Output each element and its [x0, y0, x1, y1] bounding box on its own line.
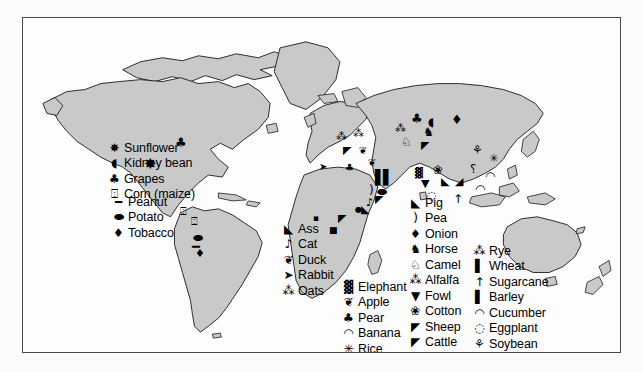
legend-item: ▼Fowl — [408, 288, 461, 304]
africa-crops-legend: ▓Elephant❦Apple♣Pear◠Banana✳Rice⬬Lentil — [341, 279, 407, 353]
cattle-icon: ◤ — [408, 336, 423, 348]
legend-item: ✸Sunflower — [107, 140, 195, 156]
legend-item-label: Cattle — [423, 335, 457, 349]
legend-item-label: Onion — [423, 227, 458, 241]
landmass-japan — [521, 131, 539, 157]
legend-item-label: Barley — [487, 290, 524, 304]
legend-item: ◖Kidney bean — [107, 156, 195, 172]
legend-item-label: Banana — [356, 326, 401, 340]
legend-item: ♘Camel — [408, 257, 461, 273]
barley-icon: ▌ — [472, 291, 487, 303]
map-frame: ♣✸⍠⍠⬬━♦⁂⁂◤❦➤♣❦▌▌)⬬◤♪◣♣◖♦⁂♞♘◤❀▼◣◢⚘⸮◠✳↑◠◌▓… — [22, 17, 621, 353]
legend-item-label: Dog — [423, 351, 448, 353]
legend-item: ━Peanut — [111, 194, 174, 210]
legend-item: ⁂Rye — [472, 243, 549, 259]
legend-item: ♣Grapes — [107, 171, 195, 187]
legend-item: ◣Pig — [408, 195, 461, 211]
legend-item-label: Tobacco — [126, 226, 174, 240]
legend-item-label: Grapes — [122, 172, 164, 186]
landmass-borneo — [499, 183, 519, 197]
legend-item-label: Eggplant — [487, 321, 538, 335]
south-america-legend: ━Peanut⬬Potato♦Tobacco — [111, 194, 174, 241]
wheat-icon: ▌ — [472, 260, 487, 272]
legend-item-label: Cotton — [423, 304, 461, 318]
legend-item-label: Elephant — [356, 280, 407, 294]
landmass-new-zealand-south — [585, 276, 603, 294]
landmass-south-america — [174, 207, 262, 332]
landmass-new-zealand-north — [599, 261, 611, 277]
legend-item: ♪Cat — [281, 237, 334, 253]
legend-item-label: Cucumber — [487, 306, 546, 320]
legend-item: ✳Rice — [341, 341, 407, 353]
landmass-falklands — [212, 333, 221, 338]
legend-item-label: Pig — [423, 196, 443, 210]
legend-item: ♣Pear — [341, 310, 407, 326]
grapes-icon: ♣ — [107, 173, 122, 185]
legend-item: ◢Dog — [408, 350, 461, 353]
cucumber-icon: ◠ — [472, 307, 487, 319]
sheep-icon: ◤ — [408, 321, 423, 333]
legend-item: ⁂Oats — [281, 283, 334, 299]
dog-icon: ◢ — [408, 352, 423, 353]
legend-item-label: Peanut — [126, 195, 167, 209]
ass-icon: ◣ — [281, 223, 296, 235]
legend-item: ◠Cucumber — [472, 305, 549, 321]
legend-item-label: Rye — [487, 244, 511, 258]
pear-icon: ♣ — [341, 312, 356, 324]
pig-icon: ◣ — [408, 197, 423, 209]
north-america-legend: ✸Sunflower◖Kidney bean♣Grapes⍠Corn (maiz… — [107, 140, 195, 202]
legend-item-label: Pea — [423, 211, 447, 225]
legend-item: ◤Sheep — [408, 319, 461, 335]
rye-icon: ⁂ — [472, 245, 487, 257]
legend-item: ♦Onion — [408, 226, 461, 242]
legend-item: ❀Cotton — [408, 304, 461, 320]
legend-item: ❦Duck — [281, 252, 334, 268]
landmass-philippines — [507, 165, 517, 179]
legend-item: ⚘Soybean — [472, 336, 549, 352]
legend-item-label: Sunflower — [122, 141, 179, 155]
eurasia-middle-legend: ◣Pig)Pea♦Onion♞Horse♘Camel⁂Alfalfa▼Fowl❀… — [408, 195, 461, 353]
legend-item: ◠Banana — [341, 326, 407, 342]
legend-item-label: Potato — [126, 210, 164, 224]
figure-root: ♣✸⍠⍠⬬━♦⁂⁂◤❦➤♣❦▌▌)⬬◤♪◣♣◖♦⁂♞♘◤❀▼◣◢⚘⸮◠✳↑◠◌▓… — [0, 0, 643, 372]
legend-item-label: Soybean — [487, 337, 538, 351]
pea-icon: ) — [408, 212, 423, 224]
legend-item-label: Cat — [296, 237, 317, 251]
legend-item-label: Oats — [296, 284, 324, 298]
legend-item-label: Apple — [356, 295, 389, 309]
legend-item: ▌Barley — [472, 290, 549, 306]
horse-icon: ♞ — [408, 243, 423, 255]
kidney-bean-icon: ◖ — [107, 157, 122, 169]
landmass-madagascar — [368, 251, 382, 275]
tobacco-icon: ♦ — [111, 227, 126, 239]
legend-item-label: Camel — [423, 258, 461, 272]
landmass-new-caledonia — [576, 227, 585, 234]
landmass-new-guinea — [527, 193, 555, 205]
legend-item-label: Horse — [423, 242, 458, 256]
africa-left-legend: ◣Ass♪Cat❦Duck➤Rabbit⁂Oats — [281, 221, 334, 299]
legend-item-label: Pear — [356, 311, 384, 325]
legend-item-label: Kidney bean — [122, 156, 192, 170]
legend-item-label: Alfalfa — [423, 273, 459, 287]
legend-item-label: Rabbit — [296, 268, 334, 282]
legend-item-label: Rice — [356, 342, 383, 353]
potato-icon: ⬬ — [111, 211, 126, 223]
legend-item: ◌Eggplant — [472, 321, 549, 337]
legend-item-label: Fowl — [423, 289, 451, 303]
rabbit-icon: ➤ — [281, 269, 296, 281]
legend-item: ♦Tobacco — [111, 225, 174, 241]
legend-item: ◣Ass — [281, 221, 334, 237]
legend-item-label: Duck — [296, 253, 326, 267]
asia-right-legend: ⁂Rye▌Wheat↑Sugarcane▌Barley◠Cucumber◌Egg… — [472, 243, 549, 353]
onion-icon: ♦ — [408, 228, 423, 240]
eggplant-icon: ◌ — [472, 322, 487, 334]
legend-item-label: Sugarcane — [487, 275, 549, 289]
legend-item: ↑Sugarcane — [472, 274, 549, 290]
legend-item: ❦Apple — [341, 295, 407, 311]
soybean-icon: ⚘ — [472, 338, 487, 350]
legend-item: ⬬Potato — [111, 210, 174, 226]
elephant-icon: ▓ — [341, 281, 356, 293]
legend-item: ◤Cattle — [408, 335, 461, 351]
camel-icon: ♘ — [408, 259, 423, 271]
cat-icon: ♪ — [281, 238, 296, 250]
